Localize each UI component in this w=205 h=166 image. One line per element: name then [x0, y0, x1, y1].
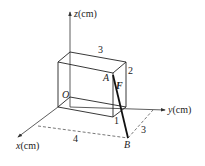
y-axis: [70, 107, 165, 110]
dim-box-height: 2: [128, 65, 133, 76]
origin-label: O: [62, 89, 69, 100]
x-axis-label: x(cm): [15, 140, 39, 152]
dim-ground-x: 4: [73, 133, 78, 144]
y-axis-label: y(cm): [167, 104, 191, 116]
z-axis-label: z(cm): [73, 8, 97, 20]
dim-box-depth: 1: [114, 115, 119, 126]
point-B-label: B: [124, 139, 130, 150]
point-A-label: A: [102, 72, 110, 83]
force-label: F: [115, 80, 123, 91]
dashed-x-projection: [38, 126, 128, 138]
dim-ground-y: 3: [141, 124, 146, 135]
x-axis: [18, 107, 58, 137]
dim-box-width: 3: [98, 44, 103, 55]
